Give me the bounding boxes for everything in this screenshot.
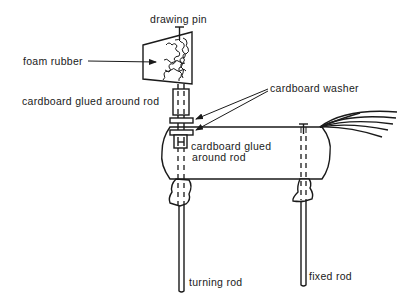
label-cardboard-lower-2: around rod — [192, 151, 246, 163]
turning-rod — [179, 200, 184, 292]
label-fixed-rod: fixed rod — [309, 270, 352, 282]
flag-head — [143, 32, 192, 84]
cardboard-washer-leaders — [196, 89, 268, 130]
cardboard-washer-upper — [170, 118, 193, 123]
turning-rod-wrap — [169, 179, 191, 206]
lower-cardboard-sleeve — [174, 135, 187, 148]
label-turning-rod: turning rod — [189, 276, 243, 288]
upper-cardboard-sleeve — [173, 89, 189, 115]
label-cardboard-washer: cardboard washer — [270, 82, 359, 94]
label-drawing-pin: drawing pin — [150, 13, 207, 25]
tail — [320, 111, 397, 137]
rod-into-flag — [178, 84, 184, 89]
fixed-rod-wrap — [293, 179, 313, 202]
label-foam-rubber: foam rubber — [23, 55, 83, 67]
cardboard-washer-lower — [170, 130, 193, 135]
wind-vane-diagram: drawing pin foam rubber cardboard glued … — [0, 0, 416, 307]
label-cardboard-upper: cardboard glued around rod — [22, 95, 159, 107]
fixed-rod — [301, 197, 306, 286]
